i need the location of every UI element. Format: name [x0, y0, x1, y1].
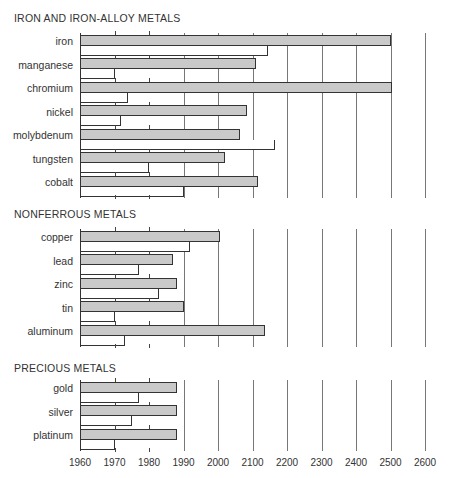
- x-axis-tick-label: 1990: [172, 457, 194, 468]
- bar-silver-white: [80, 416, 132, 426]
- bar-tin-grey: [80, 301, 184, 312]
- section-plot: [80, 33, 440, 198]
- gridline: [425, 380, 426, 451]
- gridline: [322, 229, 323, 347]
- x-axis-tick-label: 1970: [103, 457, 125, 468]
- section-title: NONFERROUS METALS: [14, 208, 136, 220]
- tick-mark: [149, 448, 150, 452]
- bar-platinum-grey: [80, 429, 177, 440]
- x-axis-tick-label: 2400: [345, 457, 367, 468]
- row-label-nickel: nickel: [46, 106, 73, 118]
- bar-gold-white: [80, 393, 139, 403]
- row-label-platinum: platinum: [33, 429, 73, 441]
- gridline: [356, 380, 357, 451]
- x-axis-tick-label: 1960: [69, 457, 91, 468]
- gridline: [218, 380, 219, 451]
- bar-lead-grey: [80, 254, 173, 265]
- row-label-cobalt: cobalt: [45, 176, 73, 188]
- bar-aluminum-white: [80, 336, 125, 346]
- bar-molybdenum-white: [80, 140, 275, 150]
- row-label-lead: lead: [53, 255, 73, 267]
- x-axis-tick-label: 2000: [207, 457, 229, 468]
- row-label-zinc: zinc: [54, 278, 73, 290]
- bar-iron-white: [80, 46, 268, 56]
- row-label-aluminum: aluminum: [27, 325, 73, 337]
- row-label-iron: iron: [55, 35, 73, 47]
- x-axis-tick-label: 2500: [379, 457, 401, 468]
- x-axis-tick-label: 2600: [414, 457, 436, 468]
- gridline: [391, 229, 392, 347]
- bar-cobalt-grey: [80, 176, 258, 187]
- x-axis-tick-label: 2100: [241, 457, 263, 468]
- row-label-manganese: manganese: [18, 59, 73, 71]
- tick-mark: [149, 344, 150, 348]
- bar-manganese-white: [80, 69, 115, 79]
- row-label-molybdenum: molybdenum: [13, 129, 73, 141]
- frame-bottom-line: [80, 198, 149, 199]
- gridline: [356, 229, 357, 347]
- bar-aluminum-grey: [80, 325, 265, 336]
- row-label-copper: copper: [41, 231, 73, 243]
- section-title: PRECIOUS METALS: [14, 362, 116, 374]
- bar-molybdenum-grey: [80, 129, 240, 140]
- row-label-tin: tin: [62, 302, 73, 314]
- section-plot: [80, 229, 440, 347]
- gridline: [287, 229, 288, 347]
- row-label-silver: silver: [48, 406, 73, 418]
- gridline: [287, 380, 288, 451]
- row-label-tungsten: tungsten: [33, 153, 73, 165]
- row-label-gold: gold: [53, 382, 73, 394]
- gridline: [253, 380, 254, 451]
- bar-manganese-grey: [80, 58, 256, 69]
- row-label-chromium: chromium: [27, 82, 73, 94]
- bar-platinum-white: [80, 440, 115, 450]
- gridline: [356, 33, 357, 198]
- bar-lead-white: [80, 265, 139, 275]
- bar-gold-grey: [80, 382, 177, 393]
- gridline: [391, 33, 392, 198]
- gridline: [322, 380, 323, 451]
- section-title: IRON AND IRON-ALLOY METALS: [14, 12, 180, 24]
- bar-iron-grey: [80, 35, 391, 46]
- bar-zinc-grey: [80, 278, 177, 289]
- x-axis-tick-label: 1980: [138, 457, 160, 468]
- bar-chromium-grey: [80, 82, 392, 93]
- gridline: [425, 33, 426, 198]
- gridline: [322, 33, 323, 198]
- gridline: [287, 33, 288, 198]
- bar-cobalt-white: [80, 187, 184, 197]
- gridline: [425, 229, 426, 347]
- tick-mark: [149, 195, 150, 199]
- section-plot: [80, 380, 440, 451]
- bar-tungsten-grey: [80, 152, 225, 163]
- bar-chromium-white: [80, 93, 128, 103]
- bar-nickel-grey: [80, 105, 247, 116]
- gridline: [391, 380, 392, 451]
- gridline: [184, 380, 185, 451]
- x-axis-tick-label: 2300: [310, 457, 332, 468]
- bar-copper-grey: [80, 231, 220, 242]
- bar-zinc-white: [80, 289, 159, 299]
- x-axis-tick-label: 2200: [276, 457, 298, 468]
- bar-tin-white: [80, 312, 115, 322]
- bar-silver-grey: [80, 405, 177, 416]
- frame-bottom-line: [80, 451, 149, 452]
- frame-bottom-line: [80, 347, 149, 348]
- bar-copper-white: [80, 242, 190, 252]
